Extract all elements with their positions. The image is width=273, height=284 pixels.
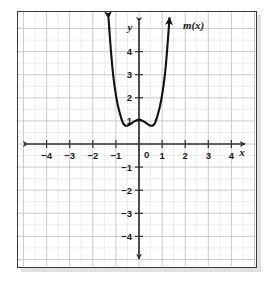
y-tick-label: 4 <box>127 46 133 57</box>
screenshot-stage: −4−3−2−11234 4321−1−2−3−4 0 x y m(x) <box>0 0 273 284</box>
x-tick-label: −3 <box>64 150 75 161</box>
y-tick-label: −4 <box>121 231 133 242</box>
x-tick-label: 3 <box>206 150 211 161</box>
y-tick-label: −1 <box>121 162 133 173</box>
y-tick-label: 3 <box>127 69 132 80</box>
graph-figure-frame: −4−3−2−11234 4321−1−2−3−4 0 x y m(x) <box>17 11 257 268</box>
grid-background <box>18 12 255 266</box>
x-tick-label: −2 <box>87 150 98 161</box>
x-tick-label: 4 <box>229 150 235 161</box>
y-tick-label: −3 <box>121 208 132 219</box>
origin-label: 0 <box>144 149 149 160</box>
y-tick-label: 2 <box>127 92 132 103</box>
x-tick-label: 2 <box>183 150 188 161</box>
x-tick-label: −4 <box>41 150 53 161</box>
y-tick-label: −2 <box>121 185 132 196</box>
coordinate-plane-svg: −4−3−2−11234 4321−1−2−3−4 0 x y m(x) <box>18 12 255 266</box>
x-axis-label: x <box>238 146 245 158</box>
x-tick-label: −1 <box>110 150 122 161</box>
plot-area: −4−3−2−11234 4321−1−2−3−4 0 x y m(x) <box>18 12 256 267</box>
y-axis-label: y <box>126 21 133 33</box>
x-tick-label: 1 <box>159 150 165 161</box>
curve-label-m-of-x: m(x) <box>183 19 204 32</box>
